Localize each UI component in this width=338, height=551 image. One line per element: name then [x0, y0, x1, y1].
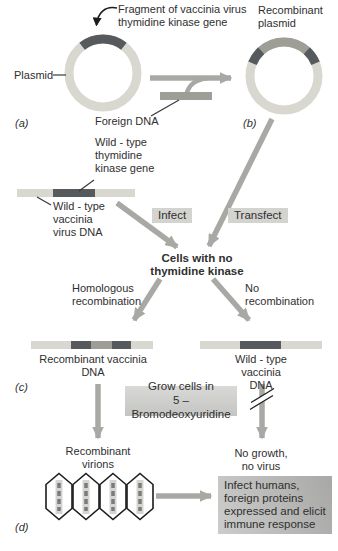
cells-no-tk-label: Cells with no thymidine kinase	[150, 252, 243, 278]
infect-humans-box: Infect humans, foreign proteins expresse…	[218, 476, 332, 534]
tk-gene-right-segment	[307, 51, 316, 64]
no-recombination-label: No recombination	[245, 282, 314, 308]
vaccinia-recombination-diagram: Fragment of vaccinia virus thymidine kin…	[0, 0, 338, 551]
no-growth-label: No growth, no virus	[234, 447, 287, 473]
homologous-recombination-label: Homologous recombination	[72, 282, 141, 308]
fragment-pointer-arrow	[97, 8, 118, 25]
recombinant-dark-segment-left	[71, 341, 91, 349]
transfect-tag: Transfect	[228, 208, 288, 223]
wildtype-tk-segment-c	[240, 341, 281, 349]
fragment-label: Fragment of vaccinia virus thymidine kin…	[118, 3, 246, 29]
infect-tag: Infect	[152, 208, 192, 223]
foreign-dna-leader-line	[151, 100, 179, 116]
no-recombination-arrow	[213, 279, 249, 320]
foreign-dna-label: Foreign DNA	[95, 115, 159, 128]
tk-gene-left-segment	[253, 51, 262, 64]
tk-gene-fragment-segment	[82, 39, 124, 46]
inserted-foreign-dna-segment	[261, 42, 306, 51]
recombinant-plasmid-label: Recombinant plasmid	[258, 4, 323, 30]
recombinant-vaccinia-dna-label: Recombinant vaccinia DNA	[39, 353, 147, 379]
virion-group	[46, 474, 153, 520]
wildtype-tk-gene-segment	[53, 189, 95, 197]
panel-letter-c: (c)	[15, 381, 28, 394]
panel-letter-d: (d)	[15, 521, 28, 534]
grow-cells-box: Grow cells in 5 – Bromodeoxyuridine	[125, 386, 237, 416]
recombinant-virions-label: Recombinant virions	[66, 445, 131, 471]
panel-letter-a: (a)	[15, 117, 28, 130]
plasmid-ring	[69, 39, 137, 107]
plasmid-label: Plasmid	[14, 69, 53, 82]
foreign-dna-bar	[160, 92, 212, 100]
transfect-arrow	[209, 119, 272, 246]
panel-letter-b: (b)	[243, 117, 256, 130]
recombinant-dark-segment-right	[112, 341, 131, 349]
wildtype-vaccinia-dna-label: Wild - type vaccinia virus DNA	[53, 200, 105, 238]
recombinant-foreign-segment	[91, 341, 112, 349]
vaccinia-dna-leader-line	[37, 197, 51, 205]
wildtype-tk-gene-label: Wild - type thymidine kinase gene	[95, 136, 154, 174]
